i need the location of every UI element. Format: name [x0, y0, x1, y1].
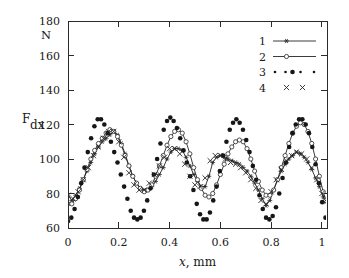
marker-dot	[237, 120, 242, 125]
marker-dot	[109, 139, 114, 144]
legend-dot-3	[274, 71, 277, 74]
marker-dot	[178, 136, 183, 141]
marker-dot	[204, 217, 209, 222]
legend-label-3: 3	[259, 66, 266, 79]
marker-dot	[208, 210, 213, 215]
marker-dot	[218, 169, 223, 174]
legend-group: 1234	[259, 35, 316, 95]
x-tick-label: 1	[318, 236, 325, 249]
marker-dot	[198, 212, 203, 217]
marker-dot	[102, 122, 107, 127]
marker-cross	[126, 170, 131, 175]
legend-label-4: 4	[259, 82, 266, 95]
marker-circle	[222, 162, 226, 166]
marker-dot	[277, 191, 282, 196]
marker-dot	[303, 122, 308, 127]
y-unit-label: N	[41, 28, 51, 42]
marker-circle	[283, 153, 287, 157]
marker-circle	[313, 157, 317, 161]
legend-dot-3	[299, 71, 302, 74]
marker-dot	[310, 145, 315, 150]
marker-dot	[158, 141, 163, 146]
marker-dot	[254, 177, 259, 182]
marker-dot	[145, 198, 150, 203]
marker-dot	[89, 136, 94, 141]
marker-dot	[300, 117, 305, 122]
plot-frame	[68, 21, 327, 228]
series-4	[65, 129, 328, 207]
marker-dot	[155, 157, 160, 162]
marker-dot	[231, 120, 236, 125]
legend-dot-3	[284, 71, 287, 74]
x-tick-label: 0.8	[262, 236, 280, 249]
marker-dot	[148, 186, 153, 191]
marker-dot	[267, 217, 272, 222]
marker-dot	[99, 117, 104, 122]
y-axis-title-subscript: dx	[30, 118, 45, 132]
marker-cross	[177, 151, 182, 156]
marker-cross	[192, 182, 197, 187]
marker-dot	[234, 117, 239, 122]
marker-dot	[168, 115, 173, 120]
marker-dot	[86, 150, 91, 155]
marker-dot	[214, 184, 219, 189]
marker-circle	[284, 54, 288, 58]
marker-circle	[169, 134, 173, 138]
y-tick-label: 80	[46, 188, 60, 201]
marker-circle	[211, 191, 215, 195]
x-tick-label: 0.2	[110, 236, 128, 249]
marker-dot	[224, 139, 229, 144]
marker-dot	[257, 193, 262, 198]
marker-dot	[142, 208, 147, 213]
marker-dot	[194, 202, 199, 207]
marker-dot	[76, 195, 81, 200]
marker-circle	[226, 152, 230, 156]
marker-dot	[293, 122, 298, 127]
marker-dot	[69, 215, 74, 220]
marker-circle	[249, 157, 253, 161]
marker-dot	[119, 172, 124, 177]
marker-circle	[272, 188, 276, 192]
marker-dot	[138, 215, 143, 220]
x-tick-label: 0	[65, 236, 72, 249]
legend-label-1: 1	[259, 35, 266, 48]
y-tick-label: 100	[39, 153, 60, 166]
x-tick-label: 0.6	[212, 236, 230, 249]
marker-dot	[211, 198, 216, 203]
marker-dot	[128, 208, 133, 213]
marker-dot	[290, 131, 295, 136]
marker-dot	[227, 127, 232, 132]
marker-dot	[175, 126, 180, 131]
marker-cross	[284, 85, 289, 90]
marker-dot	[244, 138, 249, 143]
marker-circle	[115, 134, 119, 138]
legend-dot-3	[313, 71, 316, 74]
marker-dot	[125, 196, 130, 201]
y-tick-label: 160	[39, 50, 60, 63]
plot-svg: 608010012014016018000.20.40.60.81 1234 N…	[0, 0, 349, 278]
marker-star	[306, 160, 311, 164]
y-tick-label: 180	[39, 15, 60, 28]
marker-dot	[161, 127, 166, 132]
marker-circle	[207, 195, 211, 199]
marker-dot	[247, 150, 252, 155]
marker-circle	[184, 140, 188, 144]
marker-circle	[180, 131, 184, 135]
marker-circle	[192, 166, 196, 170]
marker-dot	[280, 176, 285, 181]
marker-dot	[270, 214, 275, 219]
marker-dot	[112, 150, 117, 155]
marker-circle	[268, 193, 272, 197]
chart-figure: 608010012014016018000.20.40.60.81 1234 N…	[0, 0, 349, 278]
marker-dot	[191, 188, 196, 193]
x-axis-title: x, mm	[179, 255, 217, 269]
marker-dot	[274, 205, 279, 210]
marker-circle	[195, 178, 199, 182]
marker-dot	[171, 119, 176, 124]
marker-dot	[92, 124, 97, 129]
marker-circle	[134, 181, 138, 185]
marker-dot	[122, 184, 127, 189]
marker-cross	[300, 85, 305, 90]
marker-dot	[307, 131, 312, 136]
marker-dot	[241, 127, 246, 132]
